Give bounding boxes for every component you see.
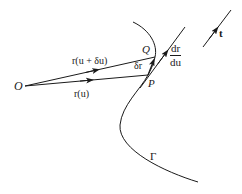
label-r-u-du: r(u + δu) [72,56,107,66]
diagram-canvas: O P Q r(u + δu) r(u) δr dr du t Γ [0,0,242,194]
diagram-drawing [0,0,242,194]
label-unit-tangent: t [219,28,223,39]
label-curve-gamma: Γ [150,151,156,162]
curve-gamma [120,22,198,182]
dr-du-numerator: dr [170,43,181,56]
arrow-r-u-du-icon [85,70,96,73]
arrow-dr-du-icon [158,53,166,64]
label-dr-du: dr du [170,43,181,68]
arrow-r-u-icon [80,80,90,81]
arrow-t-icon [209,30,216,39]
dr-du-denominator: du [170,56,181,68]
label-point-p: P [148,78,155,89]
unit-tangent-line [203,10,231,47]
label-delta-r: δr [134,61,142,71]
label-r-u: r(u) [74,89,89,99]
label-origin: O [14,80,23,92]
label-point-q: Q [142,44,150,55]
